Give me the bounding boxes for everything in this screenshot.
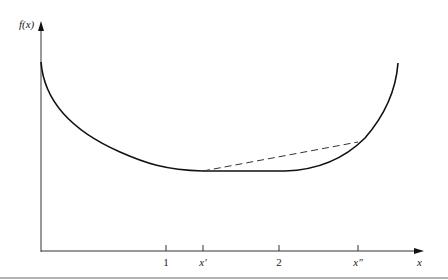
tick-label-2: 2 xyxy=(276,256,282,268)
function-curve xyxy=(41,62,398,171)
x-ticks xyxy=(166,245,358,251)
x-axis-arrow-icon xyxy=(414,248,424,254)
convex-function-diagram: f(x) x 1 x′ 2 x″ xyxy=(0,0,448,280)
y-axis-label: f(x) xyxy=(19,18,35,31)
y-axis-arrow-icon xyxy=(38,21,44,31)
chord-line xyxy=(203,142,358,171)
tick-label-1: 1 xyxy=(163,256,169,268)
tick-label-x-double-prime: x″ xyxy=(352,256,363,268)
x-axis-label: x xyxy=(416,256,422,268)
tick-label-x-prime: x′ xyxy=(198,256,207,268)
